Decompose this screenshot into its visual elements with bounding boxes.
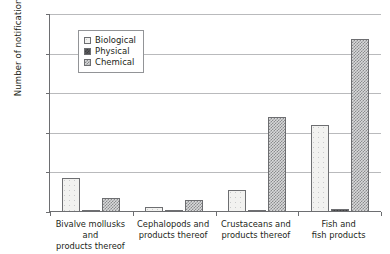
gridline-2500	[50, 14, 381, 15]
x-axis-tick-mark	[381, 212, 382, 216]
legend-swatch-biological	[84, 37, 91, 44]
legend-item-biological: Biological	[84, 35, 136, 46]
bar-chemical-3	[351, 39, 369, 212]
legend-label-physical: Physical	[95, 47, 130, 56]
x-axis-category-label: Crustaceans andproducts thereof	[215, 219, 298, 241]
legend-label-biological: Biological	[95, 36, 136, 45]
chart-container: Number of notifications 0500100015002000…	[0, 0, 390, 254]
x-axis-line	[50, 211, 381, 212]
y-axis-tick-mark	[46, 93, 50, 94]
bar-biological-3	[311, 125, 329, 212]
y-axis-tick-mark	[46, 14, 50, 15]
bar-biological-0	[62, 178, 80, 212]
x-axis-category-line: Fish and	[297, 219, 380, 230]
x-axis-category-label: Cephalopods andproducts thereof	[132, 219, 215, 241]
legend-swatch-chemical	[84, 59, 91, 66]
x-axis-category-label: Bivalve mollusks andproducts thereof	[49, 219, 132, 252]
x-axis-category-line: Cephalopods and	[132, 219, 215, 230]
x-axis-category-label: Fish andfish products	[297, 219, 380, 241]
gridline-1000	[50, 133, 381, 134]
y-axis-title: Number of notifications	[13, 0, 23, 115]
y-axis-tick-mark	[46, 212, 50, 213]
legend-item-physical: Physical	[84, 46, 136, 57]
gridline-1500	[50, 93, 381, 94]
y-axis-tick-mark	[46, 54, 50, 55]
legend-item-chemical: Chemical	[84, 57, 136, 68]
x-axis-category-line: Bivalve mollusks and	[49, 219, 132, 241]
x-axis-category-line: fish products	[297, 230, 380, 241]
bar-chemical-2	[268, 117, 286, 212]
legend-label-chemical: Chemical	[95, 58, 134, 67]
x-axis-category-line: products thereof	[49, 241, 132, 252]
x-axis-tick-mark	[216, 212, 217, 216]
y-axis-tick-mark	[46, 133, 50, 134]
x-axis-category-line: products thereof	[215, 230, 298, 241]
y-axis-tick-mark	[46, 172, 50, 173]
legend-swatch-physical	[84, 48, 91, 55]
x-axis-tick-mark	[298, 212, 299, 216]
bar-chemical-0	[102, 198, 120, 212]
x-axis-tick-mark	[50, 212, 51, 216]
x-axis-category-line: Crustaceans and	[215, 219, 298, 230]
x-axis-category-line: products thereof	[132, 230, 215, 241]
x-axis-tick-mark	[133, 212, 134, 216]
chart-legend: Biological Physical Chemical	[78, 30, 144, 73]
bar-biological-2	[228, 190, 246, 212]
gridline-500	[50, 172, 381, 173]
